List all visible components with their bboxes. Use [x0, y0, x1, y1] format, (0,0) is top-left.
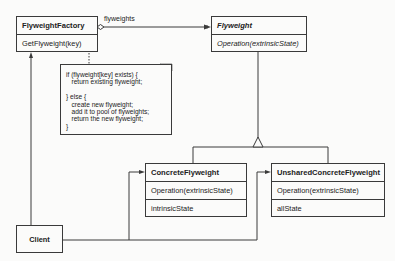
- class-operation: Operation(extrinsicState): [146, 181, 246, 199]
- class-title: UnsharedConcreteFlyweight: [272, 164, 384, 181]
- class-title: FlyweightFactory: [17, 17, 97, 34]
- class-title: Flyweight: [212, 17, 306, 34]
- class-flyweight-factory: FlyweightFactory GetFlyweight(key): [16, 16, 98, 52]
- association-label: flyweights: [104, 15, 135, 22]
- class-flyweight: Flyweight Operation(extrinsicState): [211, 16, 307, 52]
- arrowhead-icon: [29, 52, 33, 58]
- class-unshared-concrete-flyweight: UnsharedConcreteFlyweight Operation(extr…: [271, 163, 385, 217]
- class-attribute: intrinsicState: [146, 199, 246, 217]
- implementation-note: if (flyweight[key] exists) { return exis…: [60, 64, 172, 135]
- aggregation-diamond-icon: [97, 25, 104, 30]
- inheritance-triangle-icon: [253, 137, 263, 147]
- class-operation: Operation(extrinsicState): [272, 181, 384, 199]
- class-client: Client: [16, 225, 63, 253]
- class-operation: GetFlyweight(key): [17, 34, 97, 52]
- class-attribute: allState: [272, 199, 384, 217]
- class-operation: Operation(extrinsicState): [212, 34, 306, 52]
- class-title: ConcreteFlyweight: [146, 164, 246, 181]
- class-concrete-flyweight: ConcreteFlyweight Operation(extrinsicSta…: [145, 163, 247, 217]
